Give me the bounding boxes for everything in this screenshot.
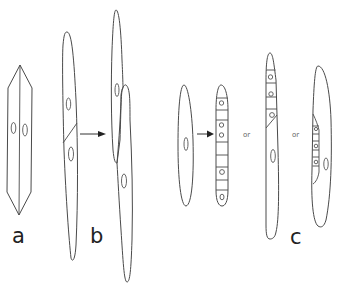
or-label-1: or [243,131,250,139]
nucleus [269,92,273,96]
arrowhead-c [207,131,214,138]
nucleus [270,113,275,118]
or-label-2: or [292,131,299,139]
cell-file-option-1 [216,85,228,206]
nucleus [219,101,223,105]
panel-label-c: c [290,225,302,249]
original-cell-c [178,85,193,206]
cell-file-option-3 [312,66,332,227]
nucleus [220,194,224,200]
nucleus-upper [66,98,70,110]
panel-label-a: a [12,224,25,248]
lateral-file-boundary [313,114,319,184]
arrowhead-b [98,131,106,137]
cell-division-diagram: a b [0,0,337,284]
nucleus [219,133,223,137]
elongated-cell [63,32,78,260]
cell-file-1-outline [216,85,228,206]
oblique-wall [63,123,77,143]
panel-c: or or [178,53,331,249]
nucleus [314,160,318,164]
nucleus-upper-daughter [115,84,119,97]
nucleus-left [11,123,16,134]
nucleus [271,150,276,163]
nucleus-lower [69,147,74,161]
cell-file-2-outline [266,53,279,239]
cell-file-option-2 [266,53,279,239]
nucleus [268,75,272,79]
nucleus-original-c [184,138,188,151]
nucleus [314,144,318,148]
daughter-cell-lower [117,85,132,282]
panel-label-b: b [90,224,103,248]
panel-b: b [63,10,133,282]
longitudinal-wall [19,65,20,215]
nucleus [220,170,225,175]
nucleus-lower-daughter [122,174,127,188]
nucleus [324,158,328,170]
nucleus [219,123,223,127]
nucleus [314,127,317,130]
nucleus-right [23,124,28,136]
panel-a: a [7,65,32,248]
daughter-cell-upper [111,10,123,163]
